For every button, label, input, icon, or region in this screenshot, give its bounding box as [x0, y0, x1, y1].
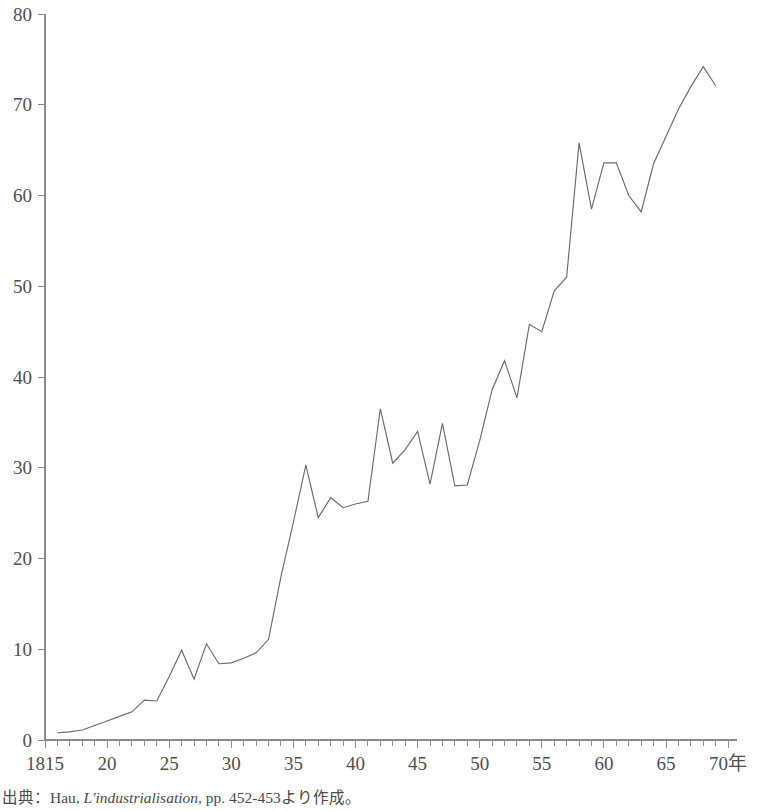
- x-tick-label: 25: [160, 753, 179, 774]
- x-tick-label: 50: [470, 753, 489, 774]
- y-tick-label: 50: [13, 276, 32, 297]
- y-tick-label: 10: [13, 639, 32, 660]
- x-tick-label: 35: [284, 753, 303, 774]
- x-tick-label: 60: [594, 753, 613, 774]
- x-tick-label: 40: [346, 753, 365, 774]
- y-tick-label: 70: [13, 94, 32, 115]
- source-prefix: 出典：Hau,: [2, 789, 84, 806]
- y-tick-label: 40: [13, 367, 32, 388]
- source-suffix: , pp. 452-453より作成。: [198, 789, 361, 806]
- chart-container: 0102030405060708018152025303540455055606…: [0, 0, 775, 811]
- x-tick-label: 65: [657, 753, 676, 774]
- x-tick-label: 45: [408, 753, 427, 774]
- line-chart: 0102030405060708018152025303540455055606…: [0, 0, 775, 811]
- y-tick-label: 60: [13, 185, 32, 206]
- y-tick-label: 20: [13, 548, 32, 569]
- data-series-line: [57, 67, 715, 733]
- x-tick-label: 30: [222, 753, 241, 774]
- source-title: L'industrialisation: [84, 789, 198, 806]
- x-tick-label: 1815: [26, 753, 64, 774]
- y-tick-label: 30: [13, 457, 32, 478]
- source-note: 出典：Hau, L'industrialisation, pp. 452-453…: [2, 785, 361, 807]
- y-tick-label: 0: [23, 730, 33, 751]
- x-tick-label: 70年: [709, 753, 747, 774]
- y-tick-label: 80: [13, 4, 32, 25]
- x-tick-label: 20: [98, 753, 117, 774]
- x-tick-label: 55: [532, 753, 551, 774]
